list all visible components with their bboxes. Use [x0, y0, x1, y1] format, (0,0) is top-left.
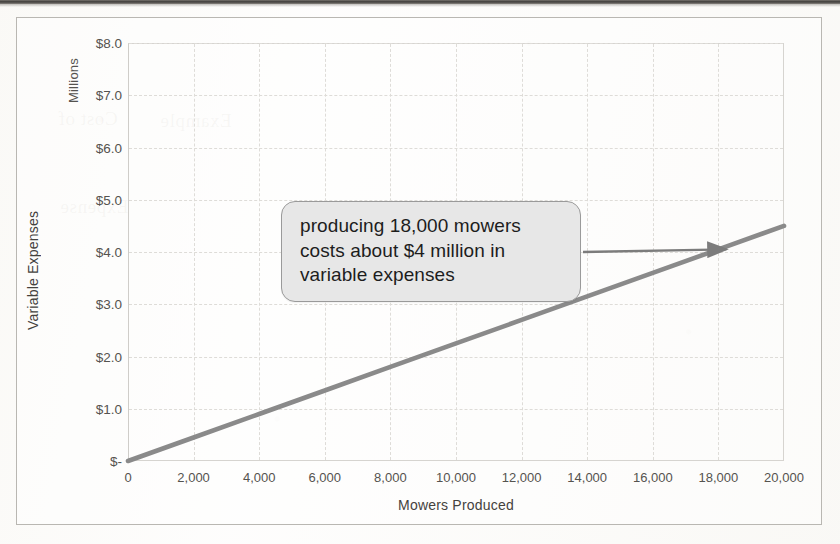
x-axis-tick-label: 14,000 — [567, 470, 607, 485]
y-axis-tick-label: $7.0 — [96, 88, 122, 103]
y-axis-tick-labels: $-$1.0$2.0$3.0$4.0$5.0$6.0$7.0$8.0 — [84, 0, 122, 544]
x-axis-tick-label: 18,000 — [699, 470, 739, 485]
x-axis-tick-label: 12,000 — [502, 470, 542, 485]
gridline-vertical — [653, 44, 654, 460]
callout-line-1: producing 18,000 mowers — [300, 214, 564, 239]
y-axis-title: Variable Expenses — [22, 155, 44, 385]
y-axis-tick-label: $6.0 — [96, 140, 122, 155]
y-axis-unit-label: Millions — [62, 44, 84, 118]
x-axis-title: Mowers Produced — [128, 497, 784, 513]
y-axis-tick-label: $3.0 — [96, 297, 122, 312]
y-axis-tick-label: $8.0 — [96, 36, 122, 51]
x-axis-tick-label: 6,000 — [309, 470, 342, 485]
y-axis-tick-label: $2.0 — [96, 349, 122, 364]
callout-line-3: variable expenses — [300, 263, 564, 288]
x-axis-tick-label: 10,000 — [436, 470, 476, 485]
y-axis-tick-label: $5.0 — [96, 192, 122, 207]
scanned-page: Cost of Example Expense $-$1.0$2.0$3.0$4… — [0, 0, 840, 544]
gridline-vertical — [259, 44, 260, 460]
x-axis-tick-label: 4,000 — [243, 470, 276, 485]
x-axis-tick-label: 8,000 — [374, 470, 407, 485]
callout-line-2: costs about $4 million in — [300, 239, 564, 264]
x-axis-tick-label: 2,000 — [177, 470, 210, 485]
page-top-scan-edge-fade — [0, 4, 840, 7]
gridline-vertical — [718, 44, 719, 460]
y-axis-tick-label: $4.0 — [96, 245, 122, 260]
y-axis-tick-label: $1.0 — [96, 401, 122, 416]
callout-annotation: producing 18,000 mowers costs about $4 m… — [281, 201, 581, 302]
x-axis-tick-label: 20,000 — [764, 470, 804, 485]
x-axis-tick-label: 16,000 — [633, 470, 673, 485]
gridline-vertical — [587, 44, 588, 460]
y-axis-tick-label: $- — [110, 454, 122, 469]
x-axis-tick-label: 0 — [124, 470, 131, 485]
gridline-vertical — [194, 44, 195, 460]
